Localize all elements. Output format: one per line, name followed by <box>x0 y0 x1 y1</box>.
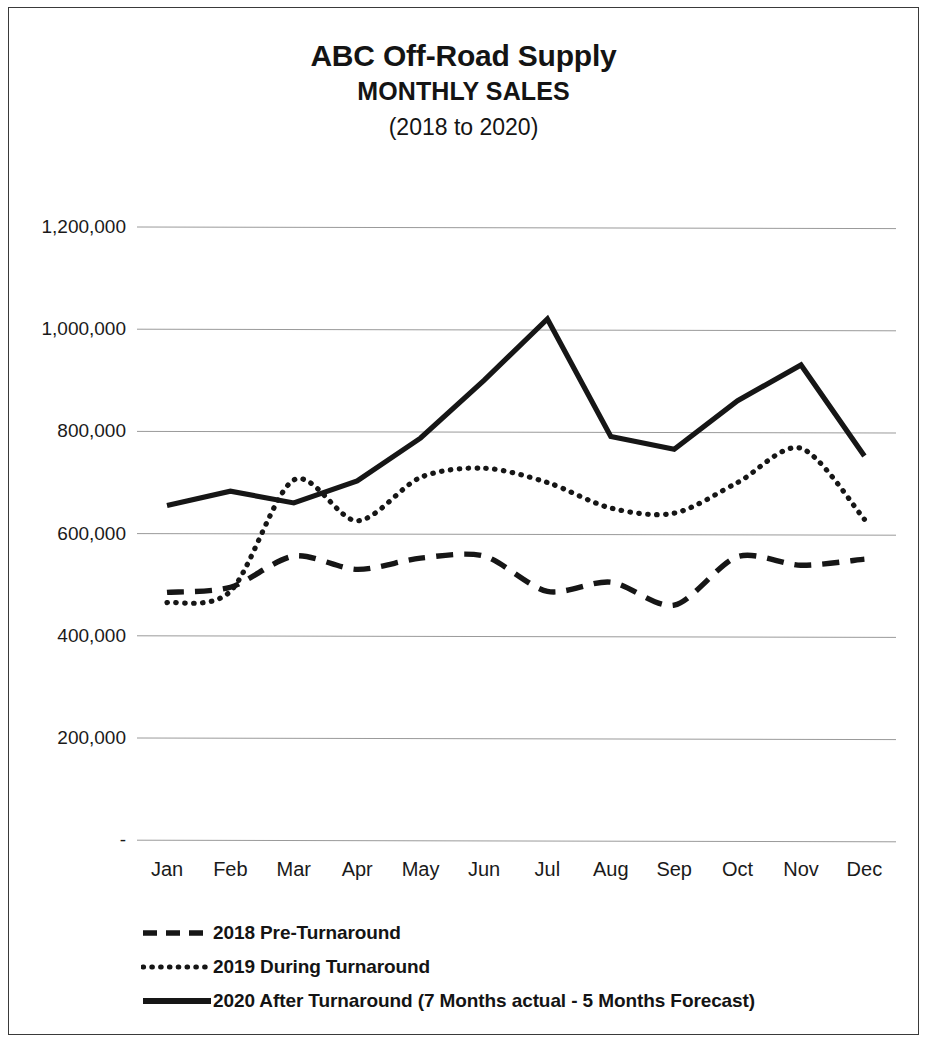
legend-swatch-dotted-icon <box>141 957 213 977</box>
legend-swatch-dashed-icon <box>141 923 213 943</box>
legend-item-2020: 2020 After Turnaround (7 Months actual -… <box>141 984 901 1018</box>
legend-label-2018: 2018 Pre-Turnaround <box>213 922 401 944</box>
chart-legend: 2018 Pre-Turnaround 2019 During Turnarou… <box>141 916 901 1018</box>
legend-label-2020: 2020 After Turnaround (7 Months actual -… <box>213 990 755 1012</box>
chart-frame: ABC Off-Road Supply MONTHLY SALES (2018 … <box>8 7 919 1035</box>
title-block: ABC Off-Road Supply MONTHLY SALES (2018 … <box>9 38 918 141</box>
chart-period-label: (2018 to 2020) <box>9 113 918 142</box>
legend-item-2018: 2018 Pre-Turnaround <box>141 916 901 950</box>
legend-label-2019: 2019 During Turnaround <box>213 956 430 978</box>
legend-swatch-solid-icon <box>141 991 213 1011</box>
chart-title: ABC Off-Road Supply <box>9 38 918 73</box>
legend-item-2019: 2019 During Turnaround <box>141 950 901 984</box>
chart-subtitle: MONTHLY SALES <box>9 76 918 107</box>
